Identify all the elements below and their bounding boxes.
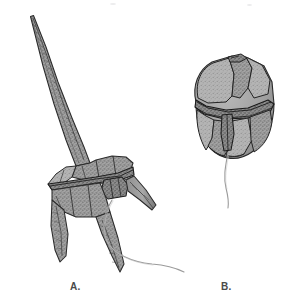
lateral-horn: [126, 176, 156, 210]
sulcus-b: [221, 114, 234, 151]
organism-a: [31, 16, 185, 273]
right-antapical-horn: [96, 212, 124, 272]
panel-label-a: A.: [70, 281, 80, 292]
scan-artifact: [247, 4, 252, 6]
illustration-canvas: [0, 0, 302, 307]
organism-b: [195, 54, 274, 208]
figure-plate: A. B.: [0, 0, 302, 307]
panel-label-b: B.: [221, 281, 231, 292]
scan-artifact: [110, 3, 116, 5]
apical-horn: [31, 16, 91, 167]
